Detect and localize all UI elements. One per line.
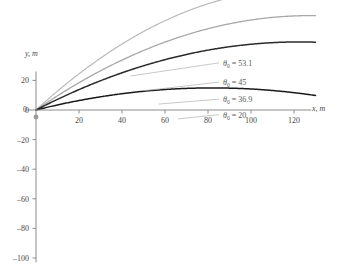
x-axis-title: x, m	[311, 104, 326, 113]
x-tick-label: 40	[118, 116, 126, 125]
plot-area: 020406080100120200–20–40–60–80–100 θ0 = …	[0, 0, 341, 278]
series-label-theta0-36-9: θ0 = 36.9	[223, 95, 252, 105]
y-tick-label: –20	[16, 136, 29, 145]
tick-labels-group: 020406080100120200–20–40–60–80–100	[12, 76, 300, 263]
y-tick-label: –40	[16, 165, 29, 174]
x-tick-label: 100	[245, 116, 257, 125]
x-tick-label: 80	[204, 116, 212, 125]
trajectory-theta0-20	[36, 88, 316, 110]
y-tick-label: –80	[16, 224, 29, 233]
y-tick-label: 0	[25, 106, 29, 115]
x-tick-label: 20	[75, 116, 83, 125]
trajectory-theta0-36-9	[36, 42, 316, 110]
leader-line-theta0-20	[178, 115, 219, 119]
x-tick-label: 60	[161, 116, 169, 125]
trajectory-curves	[36, 0, 316, 110]
series-label-theta0-20: θ0 = 20	[223, 111, 246, 121]
trajectory-theta0-45	[36, 16, 316, 110]
x-tick-label: 120	[288, 116, 300, 125]
y-tick-label: –100	[12, 254, 29, 263]
y-tick-label: –60	[16, 195, 29, 204]
axes-group	[27, 72, 311, 263]
series-label-theta0-45: θ0 = 45	[223, 78, 246, 88]
y-axis-title: y, m	[24, 49, 38, 58]
series-annotations: θ0 = 53.1θ0 = 45θ0 = 36.9θ0 = 20	[223, 59, 252, 121]
projectile-motion-chart: 020406080100120200–20–40–60–80–100 θ0 = …	[0, 0, 341, 278]
leader-line-theta0-45	[144, 82, 220, 91]
leader-line-theta0-53-1	[131, 63, 219, 76]
trajectory-theta0-53-1	[36, 0, 316, 110]
y-tick-label: 20	[21, 76, 29, 85]
series-label-theta0-53-1: θ0 = 53.1	[223, 59, 252, 69]
origin-marker	[34, 115, 39, 120]
leader-line-theta0-36-9	[159, 99, 220, 104]
